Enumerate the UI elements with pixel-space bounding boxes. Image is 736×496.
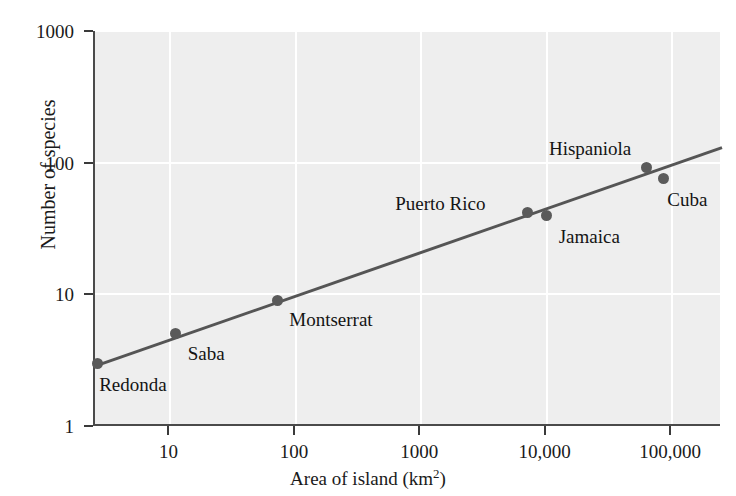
data-point [272, 295, 283, 306]
y-axis-tick [84, 293, 93, 295]
species-area-chart: RedondaSabaMontserratPuerto RicoJamaicaH… [0, 0, 736, 496]
data-point-label: Montserrat [289, 310, 372, 329]
x-axis-tick [418, 426, 420, 435]
x-axis-tick-label: 100 [280, 442, 309, 461]
plot-area: RedondaSabaMontserratPuerto RicoJamaicaH… [93, 31, 720, 426]
y-axis-tick [84, 162, 93, 164]
x-axis-title: Area of island (km2) [0, 466, 736, 490]
y-axis-tick-label: 10 [0, 285, 74, 304]
x-axis-tick-label: 10,000 [519, 442, 571, 461]
y-axis-tick-label: 1000 [0, 22, 74, 41]
x-axis-tick-label: 1000 [400, 442, 438, 461]
regression-line [95, 148, 722, 366]
y-axis-title: Number of species [37, 65, 60, 285]
x-axis-tick [544, 426, 546, 435]
x-axis-tick [669, 426, 671, 435]
y-axis-tick-label: 1 [0, 417, 74, 436]
data-point-label: Saba [188, 344, 225, 363]
data-point-label: Jamaica [559, 227, 620, 246]
data-point-label: Hispaniola [549, 139, 631, 158]
data-point [541, 210, 552, 221]
y-axis-tick [84, 30, 93, 32]
data-point-label: Cuba [667, 190, 707, 209]
data-point-label: Puerto Rico [395, 194, 485, 213]
trend-line [95, 31, 722, 426]
y-axis-tick [84, 425, 93, 427]
data-point [522, 207, 533, 218]
data-point-label: Redonda [99, 375, 167, 394]
data-point [92, 358, 103, 369]
x-axis-tick-label: 100,000 [639, 442, 701, 461]
data-point [658, 173, 669, 184]
x-axis-tick [167, 426, 169, 435]
x-axis-tick [293, 426, 295, 435]
x-axis-tick-label: 10 [159, 442, 178, 461]
